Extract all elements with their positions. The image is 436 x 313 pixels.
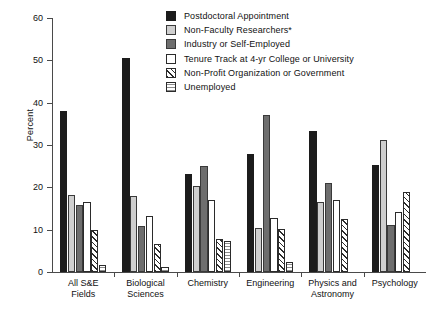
x-tick-mark	[239, 272, 240, 277]
bar	[333, 200, 340, 272]
y-tick-label: 30	[33, 140, 43, 150]
legend-label: Postdoctoral Appointment	[184, 11, 289, 21]
legend-swatch-icon	[166, 39, 176, 49]
x-category-label-line: Physics and	[308, 278, 357, 289]
bar-group	[372, 18, 418, 272]
bar	[325, 183, 332, 272]
bar	[224, 241, 231, 272]
y-axis-line	[52, 18, 53, 272]
x-category-label: Engineering	[246, 278, 294, 289]
x-category-label: BiologicalSciences	[126, 278, 165, 299]
x-category-label-line: Biological	[126, 278, 165, 289]
bar	[83, 202, 90, 272]
bar	[146, 216, 153, 272]
y-tick-mark	[47, 145, 52, 146]
bar	[130, 196, 137, 272]
bar	[341, 219, 348, 272]
x-category-label-line: Chemistry	[188, 278, 229, 289]
bar	[200, 166, 207, 272]
bar	[380, 140, 387, 272]
bar	[247, 154, 254, 272]
x-category-label: Physics andAstronomy	[308, 278, 357, 299]
bar-group	[122, 18, 168, 272]
bar-group	[60, 18, 106, 272]
legend-swatch-icon	[166, 68, 176, 78]
bar	[395, 212, 402, 272]
bar	[154, 244, 161, 272]
x-category-label-line: Sciences	[126, 289, 165, 300]
y-tick-label: 50	[33, 55, 43, 65]
bar-chart: Percent 0102030405060 All S&EFieldsBiolo…	[0, 0, 436, 313]
bar	[193, 186, 200, 272]
x-tick-mark	[114, 272, 115, 277]
bar	[68, 195, 75, 272]
y-tick-mark	[47, 272, 52, 273]
bar	[60, 111, 67, 272]
bar	[161, 267, 168, 273]
bar	[255, 228, 262, 272]
bar	[317, 202, 324, 272]
x-tick-mark	[177, 272, 178, 277]
bar	[403, 192, 410, 272]
legend-item[interactable]: Unemployed	[166, 80, 354, 94]
legend-item[interactable]: Tenure Track at 4-yr College or Universi…	[166, 52, 354, 66]
legend-swatch-icon	[166, 25, 176, 35]
bar	[270, 218, 277, 272]
x-tick-mark	[301, 272, 302, 277]
bar	[309, 131, 316, 272]
legend-item[interactable]: Non-Profit Organization or Government	[166, 66, 354, 80]
bar	[76, 205, 83, 272]
x-category-label: Chemistry	[188, 278, 229, 289]
x-category-label-line: Engineering	[246, 278, 294, 289]
y-tick-mark	[47, 18, 52, 19]
y-tick-mark	[47, 230, 52, 231]
legend-item[interactable]: Postdoctoral Appointment	[166, 9, 354, 23]
x-category-label-line: Psychology	[372, 278, 418, 289]
y-tick-mark	[47, 187, 52, 188]
bar	[185, 174, 192, 272]
y-axis-label: Percent	[25, 109, 35, 141]
bar	[138, 226, 145, 272]
y-tick-mark	[47, 60, 52, 61]
y-tick-label: 0	[38, 267, 43, 277]
x-category-label: All S&EFields	[68, 278, 99, 299]
y-tick-label: 40	[33, 98, 43, 108]
legend-swatch-icon	[166, 11, 176, 21]
x-category-label: Psychology	[372, 278, 418, 289]
bar	[99, 265, 106, 272]
chart-legend: Postdoctoral AppointmentNon-Faculty Rese…	[166, 9, 354, 94]
y-tick-label: 60	[33, 13, 43, 23]
bar	[216, 239, 223, 272]
bar	[278, 229, 285, 272]
y-tick-mark	[47, 103, 52, 104]
legend-swatch-icon	[166, 82, 176, 92]
legend-label: Tenure Track at 4-yr College or Universi…	[184, 54, 354, 64]
legend-label: Industry or Self-Employed	[184, 39, 290, 49]
legend-label: Non-Faculty Researchers*	[184, 25, 292, 35]
y-tick-label: 20	[33, 182, 43, 192]
bar	[263, 115, 270, 272]
legend-label: Unemployed	[184, 82, 236, 92]
bar	[372, 165, 379, 272]
x-category-label-line: Astronomy	[308, 289, 357, 300]
legend-item[interactable]: Non-Faculty Researchers*	[166, 23, 354, 37]
legend-item[interactable]: Industry or Self-Employed	[166, 37, 354, 51]
bar	[387, 225, 394, 272]
bar	[91, 230, 98, 272]
legend-label: Non-Profit Organization or Government	[184, 68, 344, 78]
x-category-label-line: All S&E	[68, 278, 99, 289]
bar	[286, 262, 293, 272]
bar	[208, 200, 215, 272]
bar	[122, 58, 129, 272]
legend-swatch-icon	[166, 54, 176, 64]
x-category-label-line: Fields	[68, 289, 99, 300]
y-tick-label: 10	[33, 225, 43, 235]
x-tick-mark	[364, 272, 365, 277]
